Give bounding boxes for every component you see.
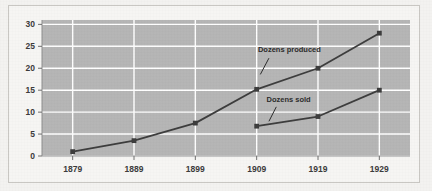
data-point-marker bbox=[377, 31, 382, 36]
y-tick-label: 15 bbox=[26, 85, 36, 95]
data-point-marker bbox=[132, 138, 137, 143]
data-point-marker bbox=[254, 87, 259, 92]
y-tick-label: 10 bbox=[26, 107, 36, 117]
data-point-marker bbox=[316, 66, 321, 71]
data-point-marker bbox=[254, 124, 259, 129]
chart-page: 051015202530 187918891899190919191929 Do… bbox=[0, 0, 432, 191]
data-point-marker bbox=[193, 121, 198, 126]
x-tick-label: 1899 bbox=[186, 164, 205, 174]
y-tick-label: 30 bbox=[26, 19, 36, 29]
annotation-label: Dozens sold bbox=[266, 95, 311, 104]
x-tick-label: 1879 bbox=[63, 164, 82, 174]
x-tick-label: 1909 bbox=[247, 164, 266, 174]
y-tick-label: 25 bbox=[26, 41, 36, 51]
x-axis-ticks: 187918891899190919191929 bbox=[63, 156, 389, 174]
y-tick-label: 20 bbox=[26, 63, 36, 73]
y-tick-label: 0 bbox=[30, 151, 35, 161]
line-chart: 051015202530 187918891899190919191929 Do… bbox=[0, 0, 432, 191]
data-point-marker bbox=[316, 114, 321, 119]
data-point-marker bbox=[70, 149, 75, 154]
y-axis-ticks: 051015202530 bbox=[26, 19, 42, 161]
x-tick-label: 1929 bbox=[370, 164, 389, 174]
y-tick-label: 5 bbox=[30, 129, 35, 139]
annotation-label: Dozens produced bbox=[258, 45, 321, 54]
plot-area-background bbox=[42, 20, 410, 156]
x-tick-label: 1889 bbox=[125, 164, 144, 174]
x-tick-label: 1919 bbox=[309, 164, 328, 174]
data-point-marker bbox=[377, 88, 382, 93]
